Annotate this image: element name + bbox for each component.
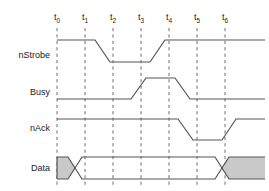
tick-label-t6: t6: [222, 12, 229, 24]
waveform-nack: [57, 119, 265, 140]
tick-label-t1: t1: [82, 12, 89, 24]
tick-label-t4: t4: [166, 12, 173, 24]
signal-label-busy: Busy: [30, 87, 51, 97]
timing-diagram-canvas: t0 t1 t2 t3 t4 t5 t6: [0, 0, 269, 191]
tick-label-t5: t5: [194, 12, 201, 24]
signal-label-data: Data: [31, 163, 50, 173]
timing-diagram: t0 t1 t2 t3 t4 t5 t6: [0, 0, 269, 191]
time-axis-labels: t0 t1 t2 t3 t4 t5 t6: [54, 12, 229, 24]
waveform-nstrobe: [57, 40, 265, 62]
signal-label-nstrobe: nStrobe: [18, 50, 50, 60]
tick-label-t0: t0: [54, 12, 61, 24]
signal-row-data: Data: [31, 157, 265, 179]
data-invalid-shade-left: [57, 157, 76, 179]
signal-row-nack: nAck: [30, 119, 265, 140]
signal-label-nack: nAck: [30, 123, 51, 133]
tick-label-t2: t2: [110, 12, 117, 24]
tick-label-t3: t3: [138, 12, 145, 24]
signal-row-nstrobe: nStrobe: [18, 40, 265, 62]
waveform-busy: [57, 78, 265, 99]
gridlines: [57, 28, 225, 187]
signal-row-busy: Busy: [30, 78, 265, 99]
